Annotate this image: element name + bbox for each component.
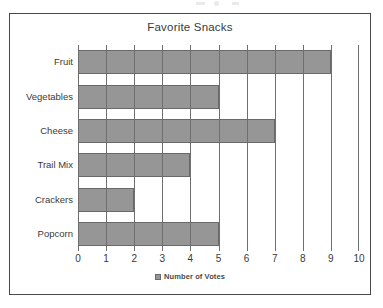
gridline-0 <box>78 45 79 251</box>
chart-legend: Number of Votes <box>10 272 370 281</box>
x-tick-label-0: 0 <box>75 254 81 264</box>
gridline-3 <box>162 45 163 251</box>
plot-area <box>78 45 359 251</box>
gridline-6 <box>247 45 248 251</box>
x-tick-label-1: 1 <box>103 254 109 264</box>
gridline-1 <box>106 45 107 251</box>
category-label-fruit: Fruit <box>54 57 73 67</box>
x-tick-label-8: 8 <box>300 254 306 264</box>
page-scan-artifacts <box>0 0 383 12</box>
legend-label: Number of Votes <box>164 272 225 281</box>
x-tick-label-3: 3 <box>160 254 166 264</box>
category-label-trail-mix: Trail Mix <box>37 160 73 170</box>
x-tick-label-6: 6 <box>244 254 250 264</box>
x-axis-tick-labels: 012345678910 <box>78 254 359 268</box>
gridline-7 <box>275 45 276 251</box>
y-axis-category-labels: FruitVegetablesCheeseTrail MixCrackersPo… <box>10 45 73 251</box>
category-label-cheese: Cheese <box>40 126 73 136</box>
gridline-8 <box>303 45 304 251</box>
gridline-5 <box>219 45 220 251</box>
bar-cheese[interactable] <box>78 119 275 143</box>
x-tick-label-2: 2 <box>131 254 137 264</box>
bar-popcorn[interactable] <box>78 222 219 246</box>
bar-fruit[interactable] <box>78 50 331 74</box>
category-label-vegetables: Vegetables <box>26 92 73 102</box>
chart-title: Favorite Snacks <box>10 21 370 33</box>
bar-vegetables[interactable] <box>78 85 219 109</box>
gridline-2 <box>134 45 135 251</box>
x-tick-label-5: 5 <box>216 254 222 264</box>
category-label-popcorn: Popcorn <box>38 229 73 239</box>
x-tick-label-9: 9 <box>328 254 334 264</box>
gridline-10 <box>358 45 359 251</box>
gridline-4 <box>190 45 191 251</box>
x-tick-label-10: 10 <box>353 254 364 264</box>
category-label-crackers: Crackers <box>35 195 73 205</box>
legend-swatch-icon <box>155 274 161 280</box>
chart-container: Favorite Snacks FruitVegetablesCheeseTra… <box>9 13 371 295</box>
x-tick-label-7: 7 <box>272 254 278 264</box>
gridline-9 <box>331 45 332 251</box>
x-tick-label-4: 4 <box>188 254 194 264</box>
